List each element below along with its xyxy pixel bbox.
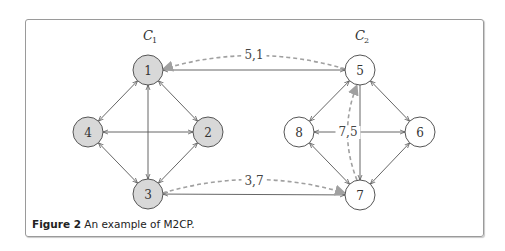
caption-label: Figure 2: [32, 218, 81, 230]
cluster-subscript: 2: [364, 36, 369, 45]
edge-label-7-5: 7,5: [338, 125, 357, 139]
edge-5-8: [310, 81, 350, 122]
edge-1-2: [158, 81, 197, 121]
node-label: 1: [144, 64, 152, 78]
node-label: 2: [204, 126, 212, 140]
node-5: 5: [345, 55, 375, 85]
node-label: 8: [295, 126, 303, 140]
node-4: 4: [73, 117, 103, 147]
node-label: 4: [84, 126, 92, 140]
node-6: 6: [405, 117, 435, 147]
node-label: 5: [356, 64, 364, 78]
caption-text: An example of M2CP.: [81, 218, 195, 230]
clusters-layer: C1C2: [143, 28, 369, 45]
node-1: 1: [133, 55, 163, 85]
edge-3-7: [163, 194, 345, 195]
edge-2-3: [158, 143, 197, 183]
edge-6-7: [370, 143, 409, 184]
edge-4-3: [98, 143, 137, 183]
node-2: 2: [193, 117, 223, 147]
node-label: 3: [144, 188, 152, 202]
edge-8-7: [309, 143, 349, 184]
node-label: 6: [416, 126, 424, 140]
figure-caption: Figure 2 An example of M2CP.: [32, 218, 195, 230]
cluster-subscript: 1: [152, 36, 157, 45]
node-label: 7: [356, 189, 364, 203]
edge-1-4: [98, 81, 137, 121]
edge-label-5-1: 5,1: [244, 48, 263, 62]
node-8: 8: [284, 117, 314, 147]
node-3: 3: [133, 179, 163, 209]
m2cp-diagram: 5,13,77,5 12345678 C1C2: [0, 0, 505, 251]
node-7: 7: [345, 180, 375, 210]
edge-label-3-7: 3,7: [244, 174, 263, 188]
edge-5-6: [370, 81, 409, 121]
